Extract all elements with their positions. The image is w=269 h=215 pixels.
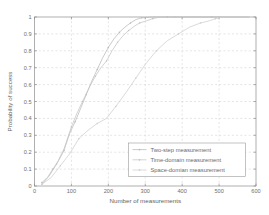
- series-marker: [130, 22, 132, 24]
- series-marker: [82, 101, 84, 103]
- series-marker: [139, 22, 141, 24]
- series-marker: [128, 30, 130, 32]
- series-marker: [60, 165, 62, 167]
- series-marker: [78, 138, 80, 140]
- x-axis-title: Number of measurements: [109, 197, 181, 204]
- series-marker: [41, 184, 43, 186]
- legend-item-label: Time-domain measurement: [151, 157, 222, 163]
- x-tick-label: 400: [177, 188, 186, 194]
- chart-legend[interactable]: Two-step measurementTime-domain measurem…: [129, 143, 246, 177]
- series-marker: [71, 126, 73, 128]
- series-marker: [115, 106, 117, 108]
- series-marker: [119, 31, 121, 33]
- y-tick-label: 0.5: [24, 99, 32, 105]
- y-tick-label: 0.4: [24, 115, 32, 121]
- y-tick-label: 0.7: [24, 65, 32, 71]
- y-tick-label: 0.6: [24, 82, 32, 88]
- series-marker: [117, 42, 119, 44]
- series-marker: [152, 18, 154, 20]
- x-tick-label: 0: [33, 188, 36, 194]
- x-tick-label: 300: [141, 188, 150, 194]
- series-marker: [74, 121, 76, 123]
- y-tick-label: 0.9: [24, 31, 32, 37]
- series-marker: [97, 69, 99, 71]
- legend-sample-marker: [139, 159, 141, 161]
- series-marker: [56, 163, 58, 165]
- y-tick-label: 0.2: [24, 149, 32, 155]
- series-marker: [200, 22, 202, 24]
- y-axis-title: Probability of success: [6, 72, 13, 132]
- x-tick-label: 200: [104, 188, 113, 194]
- y-tick-label: 0.1: [24, 166, 32, 172]
- chart-canvas: 0100200300400500600 00.10.20.30.40.50.60…: [0, 0, 269, 215]
- y-tick-label: 0: [28, 183, 31, 189]
- series-marker: [215, 18, 217, 20]
- legend-sample-marker: [139, 149, 141, 151]
- x-tick-label: 100: [67, 188, 76, 194]
- x-tick-label: 600: [251, 188, 260, 194]
- series-marker: [233, 16, 235, 18]
- series-marker: [135, 77, 137, 79]
- legend-item-label: Space-domian measurement: [151, 167, 226, 173]
- series-marker: [178, 33, 180, 35]
- x-tick-label: 500: [214, 188, 223, 194]
- series-marker: [174, 16, 176, 18]
- series-marker: [97, 123, 99, 125]
- series-marker: [248, 16, 250, 18]
- series-marker: [108, 47, 110, 49]
- y-tick-labels: 00.10.20.30.40.50.60.70.80.91: [24, 14, 32, 189]
- series-marker: [95, 75, 97, 77]
- legend-item-label: Two-step measurement: [151, 147, 212, 153]
- y-tick-label: 0.3: [24, 132, 32, 138]
- y-tick-label: 0.8: [24, 48, 32, 54]
- x-tick-labels: 0100200300400500600: [33, 188, 261, 194]
- series-marker: [141, 17, 143, 19]
- chart-figure: 0100200300400500600 00.10.20.30.40.50.60…: [0, 0, 269, 215]
- legend-sample-marker: [139, 169, 141, 171]
- x-axis-title: Number of measurements: [109, 197, 181, 204]
- y-axis-title: Probability of success: [6, 72, 13, 132]
- series-marker: [106, 60, 108, 62]
- y-tick-label: 1: [28, 14, 31, 20]
- series-marker: [156, 50, 158, 52]
